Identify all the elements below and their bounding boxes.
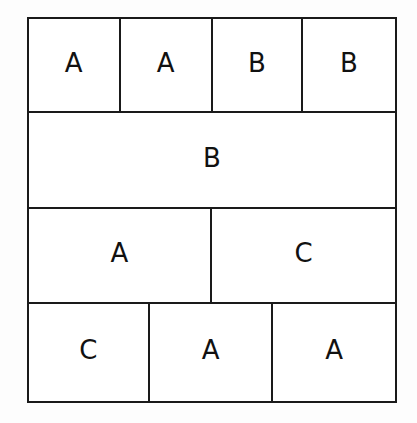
cell-label: C	[294, 240, 312, 266]
cell-label: A	[202, 337, 220, 363]
grid-cell[interactable]: B	[213, 19, 303, 111]
cell-label: C	[79, 337, 97, 363]
grid-cell[interactable]: B	[29, 113, 395, 207]
cell-label: B	[340, 50, 358, 76]
grid-row: B	[29, 113, 395, 209]
block-layout-grid: A A B B B A C C A A	[27, 17, 397, 403]
grid-cell[interactable]: C	[29, 304, 150, 401]
cell-label: A	[111, 240, 129, 266]
grid-cell[interactable]: A	[273, 304, 395, 401]
grid-cell[interactable]: A	[150, 304, 274, 401]
grid-cell[interactable]: A	[29, 19, 121, 111]
grid-row: C A A	[29, 304, 395, 401]
grid-row: A A B B	[29, 19, 395, 113]
cell-label: A	[157, 50, 175, 76]
grid-cell[interactable]: B	[303, 19, 395, 111]
cell-label: B	[248, 50, 266, 76]
grid-cell[interactable]: A	[121, 19, 213, 111]
cell-label: B	[203, 145, 221, 171]
grid-cell[interactable]: A	[29, 209, 212, 302]
cell-label: A	[65, 50, 83, 76]
grid-row: A C	[29, 209, 395, 304]
grid-cell[interactable]: C	[212, 209, 395, 302]
cell-label: A	[325, 337, 343, 363]
